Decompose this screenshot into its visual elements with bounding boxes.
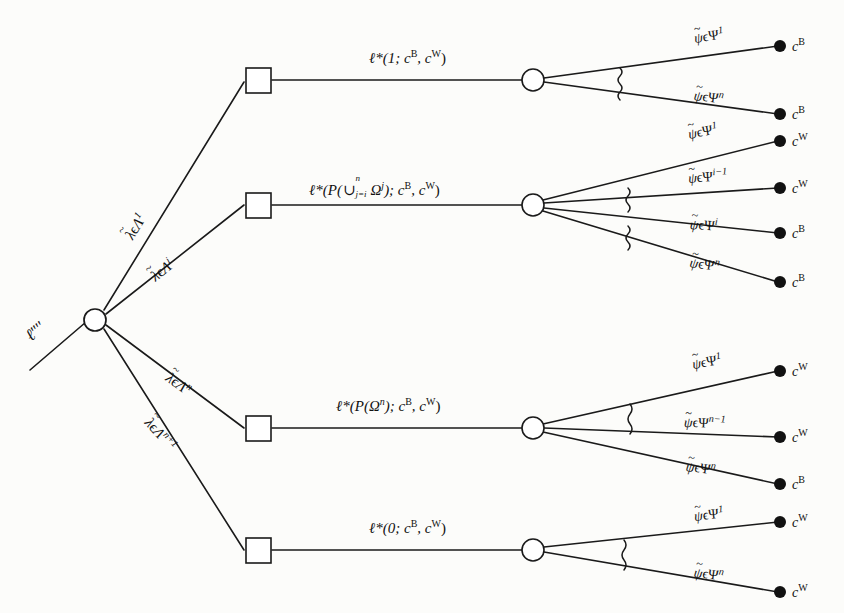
terminal-node-4-2 — [774, 586, 786, 598]
terminal-label-2-3: cB — [792, 223, 805, 242]
cost-black-superscript: B — [405, 396, 412, 407]
psi-tilde-group: ~ψ — [693, 565, 704, 582]
edge-outcome-3-1 — [543, 371, 778, 424]
cost-superscript: B — [798, 474, 805, 485]
psi-label-2-3: ~ψϵΨi — [689, 214, 718, 235]
terminal-label-2-1: cW — [792, 131, 808, 150]
terminal-label-2-2: cW — [792, 178, 808, 197]
tilde-accent: ~ — [695, 556, 704, 572]
tilde-accent: ~ — [695, 79, 704, 95]
psi-set-superscript: i−1 — [712, 165, 727, 177]
psi-tilde-group: ~ψ — [685, 459, 696, 476]
terminal-label-3-3: cB — [792, 474, 805, 493]
chance-node-2 — [522, 194, 544, 216]
psi-label-2-2: ~ψϵΨi−1 — [687, 165, 727, 186]
edge-outcome-1-2 — [544, 82, 778, 114]
psi-set-symbol: Ψ — [698, 415, 709, 430]
psi-tilde-group: ~ψ — [691, 355, 702, 372]
omega-symbol: Ω — [370, 182, 381, 198]
edge-outcome-3-2 — [544, 428, 778, 437]
cost-superscript: W — [798, 361, 807, 372]
psi-tilde-group: ~ψ — [693, 508, 703, 525]
psi-label-4-1: ~ψϵΨ1 — [693, 503, 725, 525]
psi-tilde-group: ~ψ — [693, 88, 704, 105]
psi-set-superscript: i — [715, 216, 719, 227]
cost-superscript: B — [798, 104, 805, 115]
squiggle-3-1 — [628, 404, 632, 434]
cost-white-superscript: W — [432, 518, 441, 529]
psi-label-1-2: ~ψϵΨn — [693, 85, 725, 108]
squiggle-2-1 — [626, 188, 630, 212]
cost-superscript: B — [798, 36, 805, 47]
edge-outcome-2-1 — [543, 141, 778, 200]
terminal-node-3-1 — [774, 365, 786, 377]
edge-outcome-4-2 — [544, 552, 778, 592]
psi-tilde-group: ~ψ — [688, 170, 698, 187]
terminal-node-1-2 — [774, 108, 786, 120]
ell-close: ) — [435, 182, 440, 198]
cost-superscript: W — [798, 582, 807, 593]
squiggle-2-2 — [626, 226, 630, 250]
omega-symbol: Ω — [369, 398, 380, 414]
terminal-label-4-1: cW — [792, 512, 808, 531]
terminal-node-2-1 — [774, 135, 786, 147]
ell-close: ) — [435, 398, 440, 414]
edge-outcome-2-4 — [543, 211, 778, 282]
psi-tilde-group: ~ψ — [684, 415, 693, 431]
terminal-label-3-1: cW — [792, 361, 808, 380]
tilde-accent: ~ — [688, 161, 696, 176]
psi-set-superscript: 1 — [718, 503, 724, 514]
tilde-accent: ~ — [691, 208, 699, 223]
cost-superscript: B — [798, 223, 805, 234]
ell-star-label-2: ℓ*(P(ϵ∪nj=iΩj); cB, cW) — [309, 180, 440, 199]
ell-tail-2: , c — [411, 182, 425, 198]
ell-tail-2: , c — [412, 398, 426, 414]
ell-star-label-3: ℓ*(P(Ωn); cB, cW) — [336, 396, 440, 415]
ell-head: ℓ*(P( — [309, 182, 342, 198]
decision-node-2 — [246, 193, 271, 218]
tree-nodes-layer — [84, 40, 786, 598]
cost-white-superscript: W — [425, 180, 434, 191]
ell-head: ℓ*(P( — [336, 398, 369, 414]
psi-tilde-group: ~ψ — [693, 30, 704, 47]
terminal-label-1-2: cB — [792, 104, 805, 123]
ell-head: ℓ*(1; c — [369, 50, 411, 66]
cost-superscript: B — [798, 272, 805, 283]
edge-outcome-4-1 — [544, 522, 778, 547]
ell-mid: , c — [417, 50, 431, 66]
terminal-node-4-1 — [774, 516, 786, 528]
squiggle-1-1 — [618, 68, 622, 100]
edge-outcome-3-3 — [543, 432, 778, 484]
psi-set-symbol: Ψ — [704, 218, 715, 234]
terminal-node-3-3 — [774, 478, 786, 490]
terminal-label-2-4: cB — [792, 272, 805, 291]
terminal-node-2-3 — [774, 227, 786, 239]
union-operator: ϵ∪nj=i — [343, 181, 356, 199]
psi-set-superscript: n−1 — [709, 413, 726, 425]
terminal-node-3-2 — [774, 431, 786, 443]
tilde-accent: ~ — [691, 347, 700, 363]
decision-tree-figure: ℓ′′′′ ~λϵΛ1 ~λϵΛi ~λϵΛn ~λϵΛn+1 ℓ*(1; cB… — [0, 0, 844, 613]
psi-label-3-3: ~ψϵΨn — [685, 456, 717, 479]
root-chance-node — [84, 309, 106, 331]
decision-node-3 — [246, 416, 271, 441]
ell-tail-1: ); c — [384, 182, 404, 198]
terminal-node-1-1 — [774, 40, 786, 52]
union-glyph: ∪ — [343, 182, 356, 198]
chance-node-3 — [522, 417, 544, 439]
chance-node-4 — [522, 539, 544, 561]
terminal-node-2-4 — [774, 276, 786, 288]
cost-superscript: W — [798, 512, 807, 523]
cost-white-superscript: W — [432, 48, 441, 59]
ell-tail-1: ); c — [385, 398, 405, 414]
decision-node-1 — [246, 68, 271, 93]
cost-superscript: W — [798, 427, 807, 438]
ell-head: ℓ*(0; c — [369, 520, 411, 536]
cost-superscript: W — [798, 178, 807, 189]
ell-star-label-4: ℓ*(0; cB, cW) — [369, 518, 446, 537]
psi-label-4-2: ~ψϵΨn — [693, 562, 725, 585]
psi-label-3-2: ~ψϵΨn−1 — [684, 412, 726, 432]
tilde-accent: ~ — [685, 406, 692, 421]
cost-superscript: W — [798, 131, 807, 142]
terminal-node-2-2 — [774, 182, 786, 194]
